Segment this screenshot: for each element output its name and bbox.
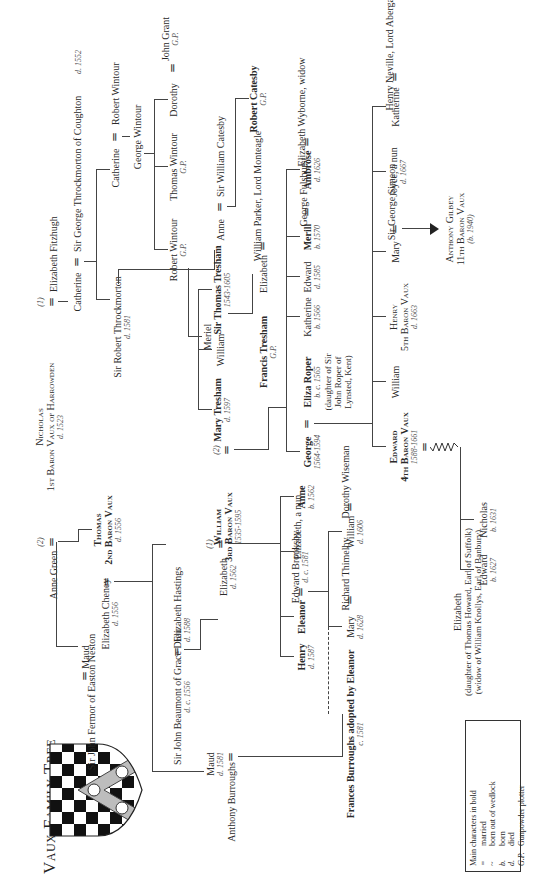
person-mary-tresham: Mary Treshamd. 1597: [212, 378, 233, 442]
wavy-line-icon: ~: [488, 852, 498, 866]
person-elizabeth-hastings: Elizabeth Hastingsd. 1588: [172, 567, 193, 642]
family-tree-page: Vaux Family Tree Main characters in bold…: [0, 0, 544, 882]
person-joyce: Joyce, a nund. 1667: [388, 147, 409, 197]
legend: Main characters in bold =married ~born o…: [465, 720, 521, 872]
person-robert-wintour-sr: Robert Wintour: [110, 63, 121, 125]
person-edward-4th-baron: Edward4th Baron Vaux1588-1661: [388, 412, 420, 482]
person-eliza-roper: Eliza Roperb. c. 1565(daughter of Sir Jo…: [302, 347, 353, 417]
person-dorothy-wintour: Dorothy: [168, 83, 179, 116]
person-william-3rd-baron: William3rd Baron Vaux1535-1595: [212, 492, 244, 562]
person-elizabeth-wyborne: Elizabeth Wyborne, widow: [296, 58, 307, 167]
person-anne-green: Anne Green: [48, 551, 59, 600]
date-george-throckmorton: d. 1552: [74, 50, 84, 74]
person-edward-1627: Edwardb. 1627: [478, 554, 499, 585]
person-eleanor: Eleanor: [296, 600, 307, 634]
person-frances-burroughs: Frances Burroughs adopted by Eleanorc. 1…: [345, 650, 366, 819]
person-robert-throckmorton: Sir Robert Throckmortond. 1581: [112, 276, 133, 377]
person-catherine-vaux: Catherine: [72, 273, 83, 312]
person-george-wintour: George Wintour: [132, 105, 143, 170]
person-maud-vaux: Maud: [80, 645, 91, 668]
person-george-vaux: George1564-1594: [302, 435, 323, 470]
person-george-throckmorton: Sir George Throckmorton of Coughton: [72, 96, 83, 252]
married-symbol-icon: ═: [302, 420, 312, 427]
person-nicholas-1631: Nicholasb. 1631: [478, 502, 499, 538]
legend-heading: Main characters in bold: [469, 726, 479, 866]
person-henry-vaux: Henryd. 1587: [296, 643, 317, 670]
legend-item-died: d.died: [507, 726, 517, 866]
legend-item-wedlock: ~born out of wedlock: [488, 726, 498, 866]
person-maud-burroughs: Maudd. 1581: [205, 752, 226, 776]
married-symbol-icon: ═: [215, 203, 225, 210]
married-symbol-icon: ═: [172, 648, 182, 655]
person-elizabeth-fitzhugh: Elizabeth Fitzhugh: [48, 216, 59, 292]
person-anne-vaux: Anneb. 1562: [296, 485, 317, 509]
person-elizabeth-beaumont: Elizabethd. 1562: [218, 558, 239, 596]
person-mary-brooksby: Maryd. 1628: [345, 615, 366, 639]
person-thomas-wintour: Thomas WintourG.P.: [168, 133, 189, 200]
wavy-line-icon: [430, 440, 460, 454]
person-edward-vaux-1585: Edwardd. 1585: [302, 261, 323, 292]
person-richard-thimelby: Richard Thimelby: [340, 538, 351, 611]
person-anne-throckmorton: Anne: [215, 219, 226, 241]
person-catherine-throckmorton: Catherine: [110, 149, 121, 188]
married-symbol-icon: ═: [47, 298, 57, 305]
person-robert-catesby: Robert CatesbyG.P.: [248, 66, 269, 133]
person-merill: Merillb. 1570: [302, 224, 323, 251]
person-elizabeth-cheney: Elizabeth Cheneyd. 1556: [100, 579, 121, 650]
person-henry-5th-baron: Henry5th Baron Vauxd. 1663: [388, 283, 420, 351]
married-symbol-icon: ═: [168, 64, 178, 71]
person-henry-neville: Henry Neville, Lord Abergavenny: [384, 0, 395, 111]
person-anthony-gilbey: Anthony Gilbey11th Baron Vaux(b. 1940): [444, 193, 476, 266]
legend-item-gp: G.P.Gunpowder plotter: [517, 726, 527, 866]
person-thomas-2nd-baron: Thomas2nd Baron Vauxd. 1556: [92, 495, 124, 565]
person-william-brooksby: Williamd. 1606: [345, 516, 366, 548]
arrow-down-icon: [430, 223, 439, 235]
legend-item-married: =married: [479, 726, 489, 866]
person-nicholas-1st-baron: Nicholas1st Baron Vaux of Harrowdend. 15…: [34, 363, 66, 492]
married-symbol-icon: ═: [420, 443, 430, 450]
married-symbol-icon: =: [479, 852, 489, 866]
person-william-parker: William Parker, Lord Monteagle: [252, 131, 263, 261]
married-symbol-icon: ═: [110, 133, 120, 140]
person-william-son: William: [390, 366, 401, 398]
married-symbol-icon: ═: [222, 446, 232, 453]
person-mary-simeon: Mary: [390, 241, 401, 263]
person-william-tresham: William: [215, 334, 226, 366]
married-symbol-icon: ═: [80, 672, 90, 679]
legend-item-born: b.born: [498, 726, 508, 866]
person-dorothy-wiseman: Dorothy Wiseman: [340, 445, 351, 518]
married-symbol-icon: ═: [226, 753, 236, 760]
person-john-grant: John GrantG.P.: [160, 17, 181, 61]
person-elizabeth-howard: Elizabeth(daughter of Thomas Howard, Ear…: [452, 528, 483, 696]
person-katherine-vaux: Katherineb. 1566: [302, 297, 323, 336]
person-anthony-burroughs: Anthony Burroughs: [226, 762, 237, 842]
person-thomas-tresham: Sir Thomas Tresham1543-1605: [212, 245, 233, 334]
married-symbol-icon: ═: [72, 258, 82, 265]
person-robert-wintour: Robert WintourG.P.: [168, 219, 189, 281]
person-francis-tresham: Francis TreshamG.P.: [258, 316, 279, 388]
person-william-catesby: Sir William Catesby: [215, 116, 226, 197]
